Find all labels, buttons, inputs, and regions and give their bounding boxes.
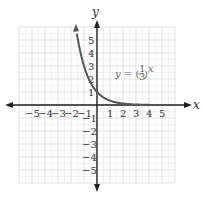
y-axis-up-arrow-icon	[94, 20, 100, 28]
x-axis-right-arrow-icon	[184, 102, 192, 108]
svg-text:5: 5	[159, 108, 165, 119]
svg-text:−3: −3	[82, 139, 97, 150]
svg-text:4: 4	[88, 48, 94, 59]
svg-text:−2: −2	[82, 126, 97, 137]
svg-text:1: 1	[107, 108, 113, 119]
svg-text:4: 4	[146, 108, 152, 119]
svg-text:3: 3	[133, 108, 139, 119]
svg-text:5: 5	[88, 35, 94, 46]
svg-text:3: 3	[88, 61, 94, 72]
svg-text:−1: −1	[82, 113, 97, 124]
y-axis-label: y	[91, 5, 99, 19]
svg-text:−5: −5	[82, 165, 97, 176]
svg-text:2: 2	[120, 108, 126, 119]
curve-arrow-icon	[73, 24, 79, 32]
svg-text:−4: −4	[82, 152, 97, 163]
x-axis-label: x	[193, 98, 200, 112]
y-axis-down-arrow-icon	[94, 184, 100, 192]
graph: x y −5−4−3−2−11234512345−1−2−3−4−5 y = (…	[0, 0, 205, 199]
x-axis-left-arrow-icon	[5, 102, 13, 108]
svg-text:x: x	[148, 63, 154, 74]
svg-text:y = (: y = (	[114, 68, 139, 79]
